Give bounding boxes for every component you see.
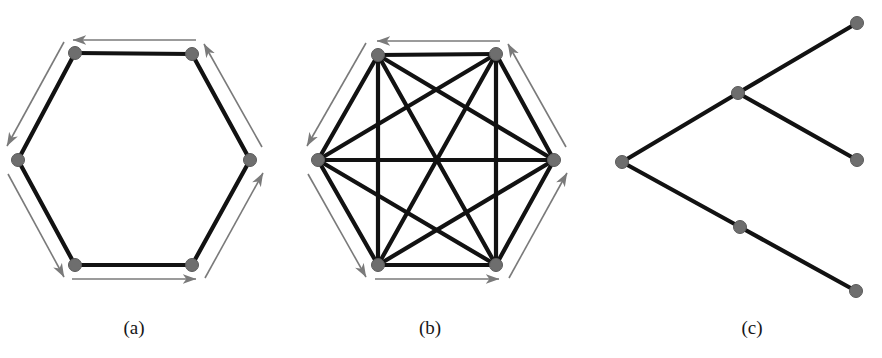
panel-a-graph bbox=[7, 40, 263, 279]
panel-b-graph bbox=[307, 41, 567, 279]
graph-vertex-v5 bbox=[69, 259, 82, 272]
caption-panel-b: (b) bbox=[370, 318, 490, 337]
graph-vertex-v3 bbox=[548, 154, 561, 167]
graph-edge bbox=[18, 160, 75, 265]
graph-vertex-v5 bbox=[372, 259, 385, 272]
graph-edge bbox=[738, 93, 857, 160]
graph-vertex-v3 bbox=[244, 154, 257, 167]
graph-edge bbox=[75, 53, 192, 54]
graph-vertex-v4 bbox=[186, 259, 199, 272]
graph-vertex-node-lower bbox=[734, 221, 747, 234]
figure-page: (a) (b) (c) bbox=[0, 0, 882, 358]
graph-vertex-leaf-middle bbox=[851, 154, 864, 167]
graph-edge bbox=[378, 54, 496, 55]
graph-vertex-v4 bbox=[490, 259, 503, 272]
graph-vertex-v6 bbox=[312, 154, 325, 167]
graph-edge bbox=[740, 227, 856, 291]
graph-vertex-leaf-top bbox=[851, 17, 864, 30]
graph-edge bbox=[738, 23, 857, 93]
graph-vertex-branch-up bbox=[732, 87, 745, 100]
graph-figure-canvas bbox=[0, 0, 882, 358]
graph-edge bbox=[622, 93, 738, 162]
graph-vertex-root bbox=[616, 156, 629, 169]
graph-vertex-v1 bbox=[69, 47, 82, 60]
graph-edge bbox=[192, 54, 250, 160]
panel-c-graph bbox=[616, 17, 864, 298]
graph-vertex-leaf-bottom bbox=[850, 285, 863, 298]
graph-vertex-v1 bbox=[372, 49, 385, 62]
graph-edge bbox=[622, 162, 740, 227]
graph-edge bbox=[18, 53, 75, 160]
graph-vertex-v2 bbox=[186, 48, 199, 61]
graph-vertex-v6 bbox=[12, 154, 25, 167]
caption-panel-c: (c) bbox=[692, 318, 812, 337]
graph-vertex-v2 bbox=[490, 48, 503, 61]
caption-panel-a: (a) bbox=[74, 318, 194, 337]
